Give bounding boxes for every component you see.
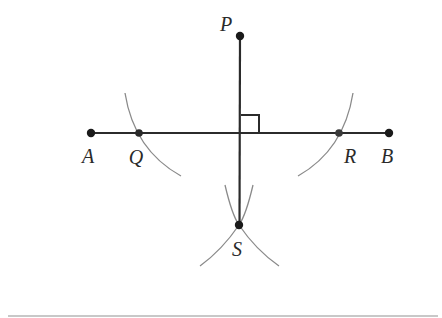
point-S [235,221,243,229]
label-S: S [232,239,242,259]
point-P [236,32,244,40]
point-R [335,129,343,137]
arc-from-R-through-S [200,185,253,266]
label-R: R [344,146,356,166]
label-Q: Q [129,147,143,167]
point-B [385,129,393,137]
label-A: A [82,146,94,166]
bottom-divider [8,315,438,317]
point-A [87,129,95,137]
geometry-diagram [0,0,442,318]
label-B: B [381,146,393,166]
right-angle-marker [241,115,259,133]
segment-PS [240,36,241,225]
label-P: P [220,14,232,34]
point-Q [135,129,143,137]
